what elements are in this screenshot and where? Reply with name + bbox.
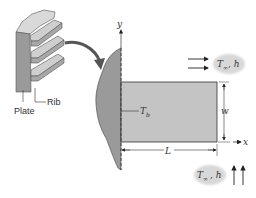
- plate-label: Plate: [14, 106, 35, 116]
- fin-rectangle: [121, 82, 217, 142]
- curved-arrow-icon: [65, 42, 100, 62]
- width-label: w: [221, 106, 229, 116]
- svg-text:, h: , h: [228, 59, 240, 69]
- ribbed-plate-inset: Plate Rib: [14, 10, 64, 116]
- x-axis-label: x: [243, 137, 248, 147]
- svg-text:∞: ∞: [203, 175, 208, 182]
- svg-text:, h: , h: [210, 170, 222, 180]
- length-label: L: [164, 146, 171, 156]
- rib-label: Rib: [47, 97, 61, 107]
- fin-diagram: Plate Rib y T b w x L T ∞ , h T ∞ , h: [0, 0, 256, 198]
- y-axis-label: y: [116, 19, 123, 29]
- base-temperature-sub: b: [146, 111, 150, 118]
